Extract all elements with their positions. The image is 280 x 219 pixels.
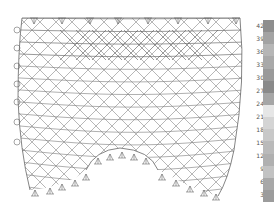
support-icon — [172, 180, 180, 186]
support-icon — [142, 158, 150, 164]
support-icon — [14, 27, 20, 33]
lattice-shell-diagram — [0, 0, 280, 219]
legend-band — [263, 20, 274, 32]
legend-band — [263, 129, 274, 141]
support-icon — [58, 184, 66, 190]
support-icon — [94, 158, 102, 164]
support-icon — [58, 18, 66, 24]
legend-band — [263, 56, 274, 68]
legend-band — [263, 69, 274, 81]
color-legend: 42 39 36 33 30 27 24 21 18 15 12 9 6 3 — [248, 20, 278, 202]
support-icon — [130, 154, 138, 160]
support-icon — [71, 180, 79, 186]
legend-band — [263, 93, 274, 105]
legend-band — [263, 190, 274, 202]
support-icon — [46, 188, 54, 194]
support-icon — [30, 18, 38, 24]
legend-labels: 42 39 36 33 30 27 24 21 18 15 12 9 6 3 — [248, 20, 264, 202]
legend-band — [263, 81, 274, 93]
support-icon — [14, 139, 20, 145]
support-icon — [31, 190, 39, 196]
legend-band — [263, 141, 274, 153]
lattice-grid — [0, 18, 280, 218]
support-icon — [186, 186, 194, 192]
legend-band — [263, 32, 274, 44]
support-icon — [174, 18, 182, 24]
legend-band — [263, 178, 274, 190]
support-icon — [14, 81, 20, 87]
legend-band — [263, 154, 274, 166]
legend-band — [263, 44, 274, 56]
legend-band — [263, 105, 274, 117]
support-icon — [82, 174, 90, 180]
support-icon — [158, 174, 166, 180]
legend-band — [263, 166, 274, 178]
legend-color-bar — [263, 20, 274, 202]
support-icon — [118, 152, 126, 158]
legend-band — [263, 117, 274, 129]
support-icon — [106, 154, 114, 160]
support-icon — [204, 18, 212, 24]
